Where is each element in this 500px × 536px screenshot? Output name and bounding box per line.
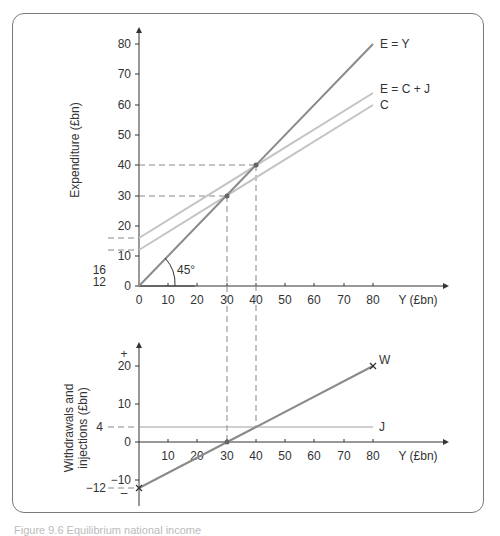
equilibrium-point-40 [254, 163, 259, 168]
label-j: J [379, 420, 385, 434]
w-zero-point [225, 440, 230, 445]
bottom-y-tick: 10 [118, 397, 132, 411]
top-x-tick: 80 [366, 293, 380, 307]
label-c: C [380, 98, 389, 112]
angle-arc [165, 258, 175, 286]
label-minus-12: −12 [86, 481, 107, 495]
label-e-y: E = Y [380, 37, 409, 51]
figure-caption: Figure 9.6 Equilibrium national income [14, 524, 201, 536]
top-x-axis-title: Y (£bn) [398, 293, 437, 307]
label-4: 4 [96, 420, 103, 434]
top-x-tick: 20 [190, 293, 204, 307]
bottom-y-axis-title-line2: injections (£bn) [76, 387, 90, 468]
top-y-tick: 0 [124, 279, 131, 293]
equilibrium-point-30 [225, 194, 230, 199]
top-y-tick: 10 [118, 249, 132, 263]
top-y-tick: 20 [118, 219, 132, 233]
top-x-tick: 10 [161, 293, 175, 307]
bottom-x-tick: 60 [307, 449, 321, 463]
top-x-tick: 0 [136, 293, 143, 307]
angle-label: 45° [177, 263, 195, 277]
top-y-tick: 30 [118, 189, 132, 203]
bottom-x-tick: 40 [249, 449, 263, 463]
top-y-tick: 50 [118, 128, 132, 142]
bottom-x-tick: 10 [161, 449, 175, 463]
label-w: W [379, 353, 391, 367]
bottom-x-tick: 50 [278, 449, 292, 463]
bottom-x-tick: 80 [366, 449, 380, 463]
label-e-c-j: E = C + J [380, 82, 430, 96]
top-x-tick: 50 [278, 293, 292, 307]
bottom-y-tick: 20 [118, 359, 132, 373]
top-y-tick: 60 [118, 98, 132, 112]
bottom-y-tick: −10 [111, 473, 132, 487]
bottom-x-axis-title: Y (£bn) [398, 449, 437, 463]
label-12: 12 [93, 275, 107, 289]
top-y-axis-title: Expenditure (£bn) [68, 102, 82, 197]
top-y-tick: 80 [118, 37, 132, 51]
bottom-y-tick: 0 [124, 435, 131, 449]
bottom-y-axis-title-line1: Withdrawals and [62, 384, 76, 473]
top-y-tick: 70 [118, 67, 132, 81]
bottom-x-tick: 70 [337, 449, 351, 463]
bottom-x-tick: 30 [220, 449, 234, 463]
bottom-chart: + – 20 10 0 −10 4 −12 [62, 345, 446, 506]
top-x-tick: 70 [337, 293, 351, 307]
top-y-tick: 40 [118, 158, 132, 172]
top-x-tick: 60 [307, 293, 321, 307]
